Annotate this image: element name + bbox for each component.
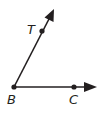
- label-b: B: [7, 92, 16, 107]
- angle-diagram: T B C: [0, 0, 104, 114]
- point-t: [39, 28, 44, 33]
- point-b: [11, 84, 16, 89]
- label-c: C: [69, 92, 79, 107]
- point-c: [71, 84, 76, 89]
- label-t: T: [27, 22, 36, 37]
- arrowhead-bc-icon: [84, 82, 97, 92]
